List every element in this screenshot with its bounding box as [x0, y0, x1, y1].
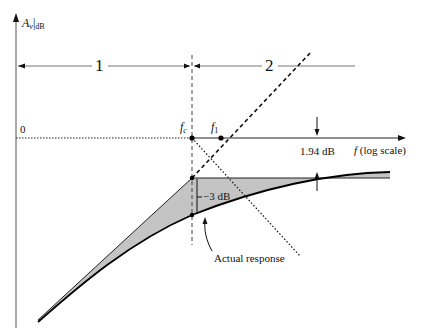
fc-label: fc: [180, 121, 187, 135]
f1-point: [218, 135, 223, 140]
actual-fc-point: [190, 213, 194, 217]
y-axis-label: Av|dB: [22, 17, 45, 31]
minus-3db-label: −3 dB: [203, 191, 230, 202]
deviation-label: 1.94 dB: [300, 146, 335, 157]
corner-point: [190, 176, 194, 180]
zero-db-label: 0: [20, 124, 26, 135]
fc-point: [189, 135, 194, 140]
actual-response-pointer: [205, 220, 212, 251]
rising-asymptote-dashed: [192, 52, 311, 178]
x-axis-arrowhead: [398, 135, 406, 141]
actual-response-label: Actual response: [214, 253, 285, 264]
region-2-label: 2: [265, 57, 274, 74]
region-1-label: 1: [95, 57, 104, 74]
bode-diagram: [0, 0, 448, 335]
x-axis-label: f (log scale): [354, 145, 406, 156]
y-axis-arrowhead: [13, 13, 19, 22]
f1-label: f1: [211, 121, 218, 135]
